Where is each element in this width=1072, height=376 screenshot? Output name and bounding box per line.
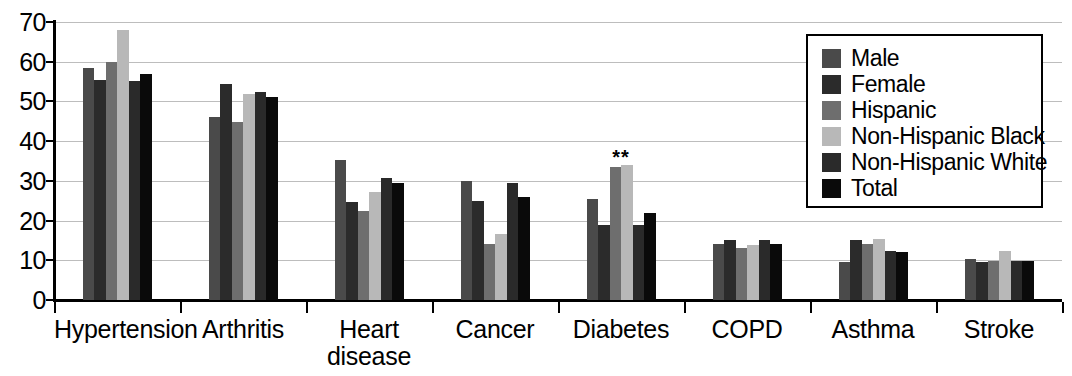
- bar: [381, 178, 393, 300]
- bar: [392, 183, 404, 300]
- bar: [472, 201, 484, 300]
- bar-group: [209, 22, 278, 300]
- x-axis-label: Arthritis: [180, 316, 306, 343]
- legend-swatch-icon: [822, 127, 841, 146]
- x-tick-mark: [306, 302, 308, 313]
- legend: MaleFemaleHispanicNon-Hispanic BlackNon-…: [806, 34, 1043, 208]
- x-axis-label: Heart disease: [306, 316, 432, 370]
- bar: [873, 239, 885, 300]
- bar: [850, 240, 862, 300]
- bar: [129, 81, 141, 300]
- y-tick-label-20: 20: [19, 208, 46, 233]
- bar: [862, 244, 874, 300]
- bar: [976, 262, 988, 300]
- y-tick-label-0: 0: [33, 288, 46, 313]
- bar: [988, 261, 1000, 300]
- bar: [266, 97, 278, 300]
- bar: [346, 202, 358, 300]
- bar: [117, 30, 129, 300]
- bar: [507, 183, 519, 300]
- x-axis-label: Hypertension: [54, 316, 180, 343]
- bar: [736, 248, 748, 300]
- bar: [1011, 261, 1023, 300]
- x-tick-mark: [558, 302, 560, 313]
- x-tick-mark: [810, 302, 812, 313]
- bar: [598, 225, 610, 300]
- legend-item: Male: [822, 45, 1041, 71]
- y-tick-label-40: 40: [19, 129, 46, 154]
- bar-chart: 010203040506070 HypertensionArthritisHea…: [0, 0, 1072, 376]
- x-tick-mark: [54, 302, 56, 313]
- bar: [140, 74, 152, 300]
- bar: [220, 84, 232, 300]
- x-tick-mark: [1062, 302, 1064, 313]
- legend-item: Non-Hispanic Black: [822, 123, 1041, 149]
- x-axis-label: Diabetes: [558, 316, 684, 343]
- legend-label: Total: [851, 177, 898, 200]
- legend-swatch-icon: [822, 49, 841, 68]
- x-axis-label: COPD: [684, 316, 810, 343]
- bar-group: [461, 22, 530, 300]
- bar: [965, 259, 977, 300]
- x-tick-mark: [180, 302, 182, 313]
- bar: [232, 122, 244, 300]
- y-tick-label-70: 70: [19, 10, 46, 35]
- legend-label: Non-Hispanic Black: [851, 125, 1045, 148]
- x-tick-mark: [684, 302, 686, 313]
- y-tick-label-10: 10: [19, 248, 46, 273]
- significance-asterisks: **: [612, 147, 630, 167]
- bar: [1022, 261, 1034, 300]
- bar: [243, 94, 255, 301]
- bar: [94, 80, 106, 300]
- legend-label: Non-Hispanic White: [851, 151, 1047, 174]
- bar: [83, 68, 95, 300]
- x-axis-label: Cancer: [432, 316, 558, 343]
- legend-swatch-icon: [822, 101, 841, 120]
- legend-item: Hispanic: [822, 97, 1041, 123]
- bar: [896, 252, 908, 300]
- bar: [518, 197, 530, 300]
- bar: [759, 240, 771, 300]
- bar: [644, 213, 656, 300]
- legend-swatch-icon: [822, 179, 841, 198]
- bar: [335, 160, 347, 300]
- bar-group: [83, 22, 152, 300]
- bar: [106, 62, 118, 300]
- y-tick-label-50: 50: [19, 89, 46, 114]
- bar: [839, 262, 851, 300]
- bar: [587, 199, 599, 300]
- bar-group: [713, 22, 782, 300]
- legend-item: Total: [822, 175, 1041, 201]
- bar: [724, 240, 736, 300]
- bar: [885, 251, 897, 300]
- bar: [999, 251, 1011, 300]
- bar: [461, 181, 473, 300]
- bar: [621, 165, 633, 300]
- x-axis-label: Asthma: [810, 316, 936, 343]
- y-tick-label-60: 60: [19, 49, 46, 74]
- legend-label: Female: [851, 73, 925, 96]
- bar: [209, 117, 221, 300]
- bar: [770, 244, 782, 300]
- legend-item: Female: [822, 71, 1041, 97]
- x-tick-mark: [432, 302, 434, 313]
- y-tick-label-30: 30: [19, 168, 46, 193]
- bar-group: [335, 22, 404, 300]
- legend-label: Male: [851, 47, 899, 70]
- bar: [633, 225, 645, 300]
- legend-item: Non-Hispanic White: [822, 149, 1041, 175]
- bar: [484, 244, 496, 300]
- bar: [495, 234, 507, 300]
- x-axis-label: Stroke: [936, 316, 1062, 343]
- legend-swatch-icon: [822, 153, 841, 172]
- bar: [713, 244, 725, 300]
- bar: [747, 245, 759, 300]
- bar: [369, 192, 381, 300]
- bar: [358, 211, 370, 300]
- y-axis-ticks: 010203040506070: [0, 0, 46, 302]
- legend-swatch-icon: [822, 75, 841, 94]
- x-tick-mark: [936, 302, 938, 313]
- bar: [610, 167, 622, 300]
- bar: [255, 92, 267, 300]
- legend-label: Hispanic: [851, 99, 936, 122]
